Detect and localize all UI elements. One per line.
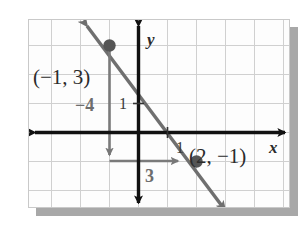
y-axis-label: y bbox=[147, 31, 155, 48]
point-neg1-3 bbox=[103, 39, 115, 51]
point-label-neg1-3: (−1, 3) bbox=[33, 67, 90, 88]
rise-label: −4 bbox=[75, 96, 94, 114]
plot-layer bbox=[29, 20, 290, 208]
graph-plate: (−1, 3) (2, −1) −4 3 1 1 y x bbox=[28, 19, 290, 208]
axes bbox=[35, 26, 285, 203]
run-label: 3 bbox=[145, 167, 154, 185]
point-label-2-neg1: (2, −1) bbox=[189, 146, 246, 167]
x-axis-label: x bbox=[269, 139, 278, 156]
figure-canvas: (−1, 3) (2, −1) −4 3 1 1 y x bbox=[0, 0, 307, 226]
x-unit-label: 1 bbox=[176, 140, 184, 156]
solution-line bbox=[87, 26, 225, 208]
y-unit-label: 1 bbox=[119, 96, 127, 112]
